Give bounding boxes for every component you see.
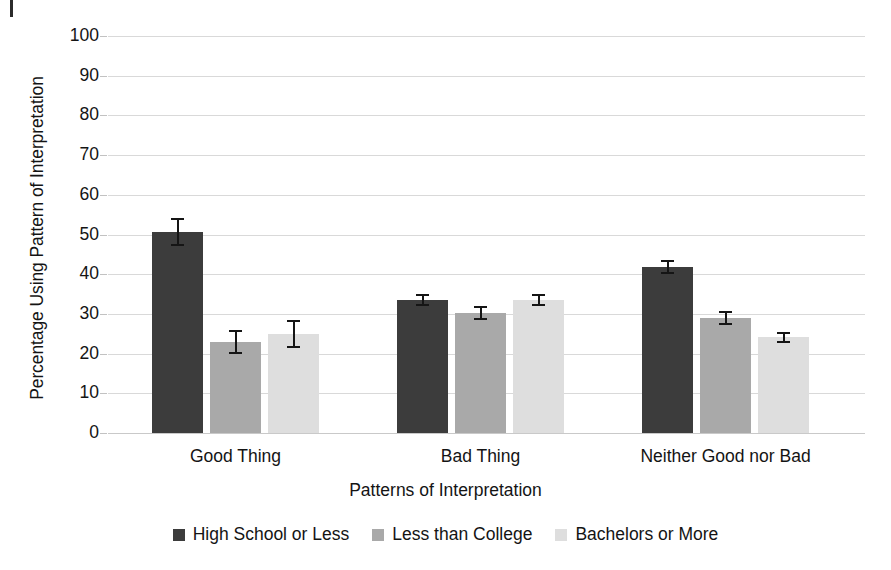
error-bar-cap-bottom (777, 341, 790, 343)
legend-label: High School or Less (193, 524, 350, 545)
x-category-label: Neither Good nor Bad (640, 444, 810, 468)
bar (642, 267, 693, 433)
y-axis-title: Percentage Using Pattern of Interpretati… (22, 28, 52, 448)
y-tick-mark (100, 314, 107, 315)
error-bar-cap-top (287, 320, 300, 322)
error-bar (229, 330, 242, 354)
y-tick-label: 90 (80, 67, 99, 85)
y-tick-mark (100, 393, 107, 394)
y-tick-label: 30 (80, 305, 99, 323)
bar (210, 342, 261, 433)
error-bar-cap-top (171, 218, 184, 220)
y-tick-mark (100, 155, 107, 156)
error-bar (719, 311, 732, 325)
error-bar-cap-bottom (474, 318, 487, 320)
y-tick-mark (100, 115, 107, 116)
error-bar (532, 294, 545, 306)
bar (152, 232, 203, 433)
bar-chart-figure: Percentage Using Pattern of Interpretati… (0, 0, 891, 570)
y-tick-mark (100, 274, 107, 275)
gridline (108, 274, 865, 275)
gridline (108, 155, 865, 156)
error-bar-cap-bottom (171, 244, 184, 246)
legend-swatch-icon (555, 529, 567, 541)
y-tick-mark (100, 235, 107, 236)
y-tick-label: 100 (70, 27, 99, 45)
x-category-label: Good Thing (190, 444, 281, 468)
error-bar-cap-bottom (287, 346, 300, 348)
error-bar-stem (177, 218, 179, 247)
scan-artifact-mark (10, 0, 13, 17)
x-axis-title: Patterns of Interpretation (0, 480, 891, 501)
error-bar-cap-bottom (719, 323, 732, 325)
error-bar-cap-top (474, 306, 487, 308)
error-bar (777, 332, 790, 343)
gridline (108, 433, 865, 434)
y-tick-label: 50 (80, 226, 99, 244)
chart-legend: High School or LessLess than CollegeBach… (0, 524, 891, 545)
error-bar-cap-top (777, 332, 790, 334)
error-bar (474, 306, 487, 320)
error-bar-cap-top (719, 311, 732, 313)
plot-area: 1009080706050403020100 (108, 36, 865, 433)
y-tick-label: 10 (80, 385, 99, 403)
error-bar-cap-top (661, 260, 674, 262)
legend-item: High School or Less (173, 524, 350, 545)
legend-swatch-icon (173, 529, 185, 541)
error-bar-stem (235, 330, 237, 354)
error-bar-cap-top (532, 294, 545, 296)
bar (700, 318, 751, 433)
error-bar-cap-top (229, 330, 242, 332)
bar (268, 334, 319, 433)
error-bar-cap-bottom (229, 352, 242, 354)
y-tick-label: 20 (80, 345, 99, 363)
y-tick-mark (100, 354, 107, 355)
y-tick-mark (100, 76, 107, 77)
error-bar-cap-bottom (416, 304, 429, 306)
legend-label: Less than College (392, 524, 532, 545)
legend-swatch-icon (372, 529, 384, 541)
y-tick-mark (100, 433, 107, 434)
y-tick-label: 80 (80, 107, 99, 125)
y-tick-label: 70 (80, 146, 99, 164)
error-bar (171, 218, 184, 247)
gridline (108, 195, 865, 196)
bar (455, 313, 506, 433)
gridline (108, 36, 865, 37)
bar (397, 300, 448, 433)
y-tick-label: 40 (80, 265, 99, 283)
error-bar-cap-bottom (661, 272, 674, 274)
legend-item: Less than College (372, 524, 532, 545)
error-bar (287, 320, 300, 348)
error-bar (661, 260, 674, 273)
bar (758, 337, 809, 433)
legend-item: Bachelors or More (555, 524, 718, 545)
error-bar-cap-bottom (532, 304, 545, 306)
gridline (108, 115, 865, 116)
gridline (108, 76, 865, 77)
y-tick-label: 0 (89, 424, 99, 442)
x-category-label: Bad Thing (441, 444, 520, 468)
y-tick-mark (100, 195, 107, 196)
error-bar (416, 294, 429, 306)
bar (513, 300, 564, 433)
error-bar-cap-top (416, 294, 429, 296)
y-tick-mark (100, 36, 107, 37)
error-bar-stem (293, 320, 295, 348)
y-tick-label: 60 (80, 186, 99, 204)
gridline (108, 235, 865, 236)
legend-label: Bachelors or More (575, 524, 718, 545)
